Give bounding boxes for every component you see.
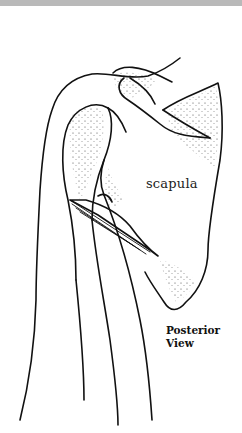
arm-inner-line [92,220,118,425]
view-caption-line1: Posterior [166,324,220,337]
view-caption: Posterior View [166,324,220,350]
view-caption-line2: View [166,337,220,350]
scapula-label: scapula [146,176,198,191]
shoulder-illustration [0,0,242,433]
